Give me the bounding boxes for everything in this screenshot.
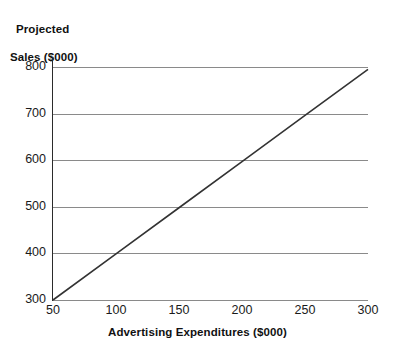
y-tick-label-700: 700	[10, 107, 46, 120]
y-axis-tick-labels: 300400500600700800	[6, 0, 46, 355]
x-tick-label-250: 250	[285, 303, 325, 317]
x-axis-title: Advertising Expenditures ($000)	[0, 326, 395, 338]
y-tick-label-600: 600	[10, 153, 46, 166]
y-tick-label-800: 800	[10, 60, 46, 73]
x-tick-label-100: 100	[96, 303, 136, 317]
series-layer	[53, 67, 368, 300]
y-tick-label-500: 500	[10, 200, 46, 213]
x-tick-label-200: 200	[222, 303, 262, 317]
x-tick-label-300: 300	[348, 303, 388, 317]
y-tick-label-400: 400	[10, 246, 46, 259]
series-line-projected-sales	[53, 69, 368, 300]
x-tick-label-50: 50	[33, 303, 73, 317]
projected-sales-line-chart: Projected Sales ($000) 30040050060070080…	[0, 0, 395, 355]
x-tick-label-150: 150	[159, 303, 199, 317]
